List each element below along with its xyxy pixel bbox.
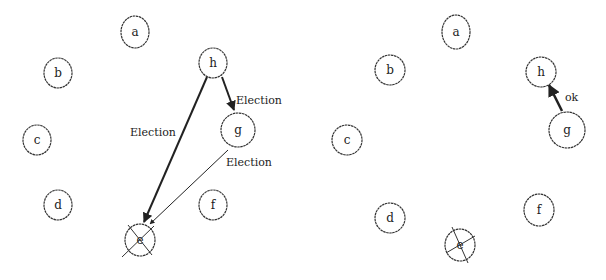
node-c: c [332, 125, 362, 155]
panel-after-election: okabcdefgh [332, 15, 585, 263]
election-algorithm-diagram: ElectionElectionElectionabcdefgh okabcde… [0, 0, 606, 280]
node-e: e [122, 224, 155, 257]
edge-label: Election [236, 94, 282, 107]
node-label: c [34, 133, 41, 147]
node-label: b [54, 66, 62, 80]
node-label: c [344, 133, 351, 147]
node-label: g [234, 123, 242, 137]
panel-before-election: ElectionElectionElectionabcdefgh [23, 16, 282, 257]
node-label: a [452, 25, 459, 39]
node-a: a [121, 16, 149, 48]
node-label: h [209, 56, 217, 70]
node-g: g [221, 113, 255, 147]
edge-h-to-g [222, 77, 234, 110]
node-label: a [131, 25, 138, 39]
node-f: f [199, 190, 227, 220]
node-label: d [386, 211, 394, 225]
node-h: h [199, 48, 227, 78]
edge-g-to-h [549, 85, 562, 111]
node-e: e [445, 227, 475, 263]
diagram-svg: ElectionElectionElectionabcdefgh okabcde… [0, 0, 606, 280]
node-d: d [375, 203, 405, 233]
node-d: d [44, 190, 72, 220]
node-a: a [442, 15, 470, 49]
node-label: b [386, 63, 394, 77]
node-g: g [549, 112, 585, 148]
node-label: d [54, 198, 62, 212]
node-c: c [23, 125, 51, 155]
edge-label: Election [130, 126, 176, 139]
node-f: f [524, 194, 554, 226]
edge-label: Election [226, 156, 272, 169]
edge-label: ok [565, 91, 579, 104]
node-b: b [44, 58, 72, 88]
node-h: h [526, 57, 556, 87]
node-label: h [537, 65, 545, 79]
node-label: g [563, 123, 571, 137]
node-b: b [375, 55, 405, 85]
